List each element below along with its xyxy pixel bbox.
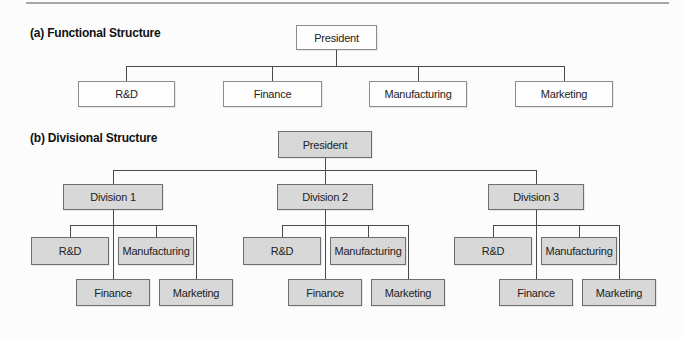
- node-a-rnd: R&D: [78, 81, 175, 107]
- section-b-top-connectors: [113, 158, 536, 184]
- node-a-finance: Finance: [223, 81, 322, 107]
- node-division-2: Division 2: [277, 184, 373, 210]
- node-a-marketing: Marketing: [515, 81, 613, 107]
- node-a-president: President: [296, 25, 377, 50]
- node-a-manufacturing: Manufacturing: [369, 81, 467, 107]
- node-div2-manufacturing: Manufacturing: [330, 237, 406, 265]
- node-division-1: Division 1: [63, 184, 163, 210]
- node-div1-marketing: Marketing: [159, 279, 233, 306]
- node-div2-finance: Finance: [288, 279, 362, 306]
- node-div2-rnd: R&D: [243, 237, 321, 265]
- node-div1-rnd: R&D: [31, 237, 109, 265]
- section-a-heading: (a) Functional Structure: [30, 26, 161, 40]
- section-b-heading: (b) Divisional Structure: [30, 131, 157, 145]
- node-div3-marketing: Marketing: [582, 279, 656, 306]
- node-div3-manufacturing: Manufacturing: [541, 237, 617, 265]
- node-div1-finance: Finance: [76, 279, 150, 306]
- node-div3-rnd: R&D: [454, 237, 532, 265]
- node-div1-manufacturing: Manufacturing: [118, 237, 194, 265]
- org-chart-figure: (a) Functional Structure President R&D F…: [0, 0, 684, 338]
- node-division-3: Division 3: [488, 184, 584, 210]
- node-div3-finance: Finance: [499, 279, 573, 306]
- section-a-connectors: [127, 50, 565, 81]
- node-div2-marketing: Marketing: [371, 279, 445, 306]
- node-b-president: President: [278, 131, 372, 158]
